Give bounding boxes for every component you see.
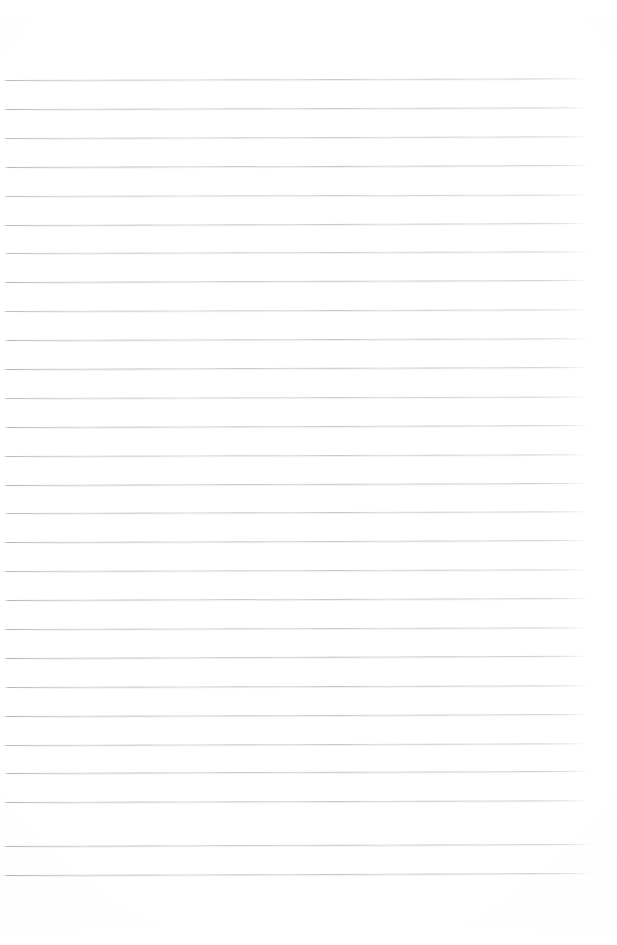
ruled-line [4,511,590,514]
ruled-line [3,280,589,283]
ruled-line [3,873,592,876]
ruled-line [3,743,588,746]
ruled-line [3,540,589,543]
ruled-line [3,396,588,399]
ruled-line [3,309,588,312]
ruled-line [4,165,590,168]
ruled-line [3,714,589,717]
ruled-line [3,194,589,197]
ruled-line [3,627,589,630]
ruled-line [3,483,588,486]
ruled-lines-layer [0,0,617,945]
ruled-line [3,844,592,847]
ruled-line [3,656,588,659]
ruled-line [3,569,588,572]
ruled-line [3,107,589,110]
ruled-line [4,685,590,688]
lined-paper-page [0,0,617,945]
ruled-line [4,251,590,254]
ruled-line [3,454,589,457]
ruled-line [4,598,590,601]
ruled-line [4,338,590,341]
ruled-line [3,136,589,139]
ruled-line [4,771,590,774]
ruled-line [3,223,588,226]
ruled-line [4,425,590,428]
ruled-line [3,78,588,81]
ruled-line [3,800,589,803]
ruled-line [3,367,589,370]
